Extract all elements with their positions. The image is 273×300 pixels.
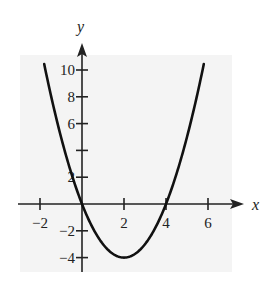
y-tick-label: −2	[59, 223, 75, 239]
y-tick-label: 6	[68, 116, 76, 132]
x-axis-label: x	[251, 196, 259, 213]
y-axis-label: y	[75, 18, 85, 36]
plot-background	[20, 55, 232, 272]
x-tick-label: 6	[204, 215, 212, 231]
x-tick-label: 2	[120, 215, 128, 231]
parabola-chart: −224610862−2−4 x y	[0, 0, 273, 300]
y-tick-label: 10	[60, 62, 75, 78]
y-tick-label: 8	[68, 89, 76, 105]
y-tick-label: −4	[59, 250, 75, 266]
x-tick-label: 4	[162, 215, 170, 231]
x-tick-label: −2	[32, 215, 48, 231]
